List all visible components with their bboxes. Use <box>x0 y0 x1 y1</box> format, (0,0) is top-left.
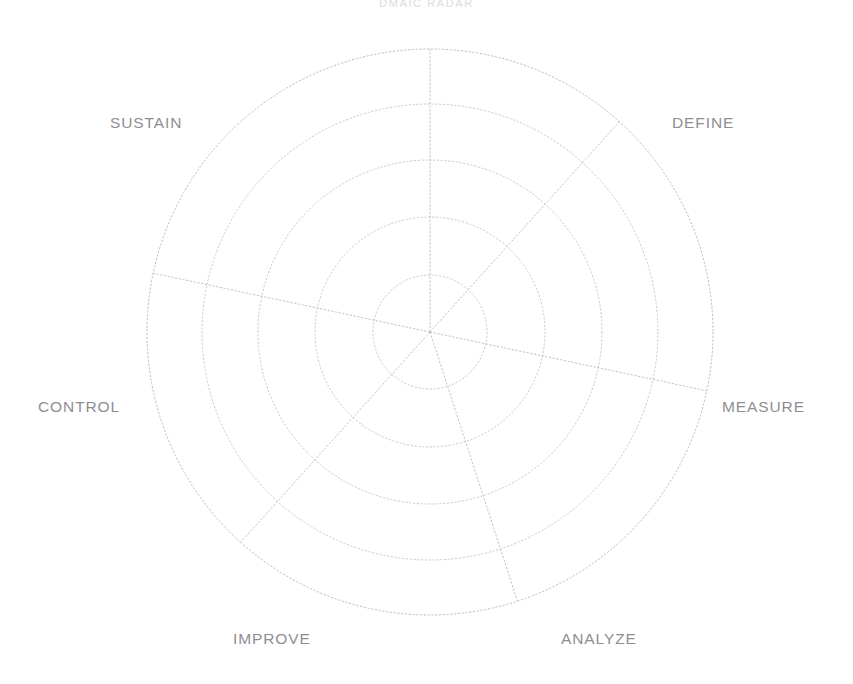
grid-spoke-improve <box>241 332 430 542</box>
grid-spoke-control <box>153 273 430 332</box>
radar-grid-svg <box>0 0 853 684</box>
axis-label-control: CONTROL <box>38 398 120 416</box>
axis-label-measure: MEASURE <box>722 398 805 416</box>
axis-label-define: DEFINE <box>672 114 734 132</box>
axis-label-sustain: SUSTAIN <box>110 114 182 132</box>
grid-spoke-analyze <box>430 332 517 601</box>
grid-spoke-define <box>430 122 619 332</box>
grid-spokes <box>153 49 707 601</box>
grid-spoke-measure <box>430 332 707 391</box>
radar-chart: DMAIC RADAR SUSTAIN DEFINE MEASURE CONTR… <box>0 0 853 684</box>
axis-label-analyze: ANALYZE <box>561 630 637 648</box>
axis-label-improve: IMPROVE <box>233 630 311 648</box>
